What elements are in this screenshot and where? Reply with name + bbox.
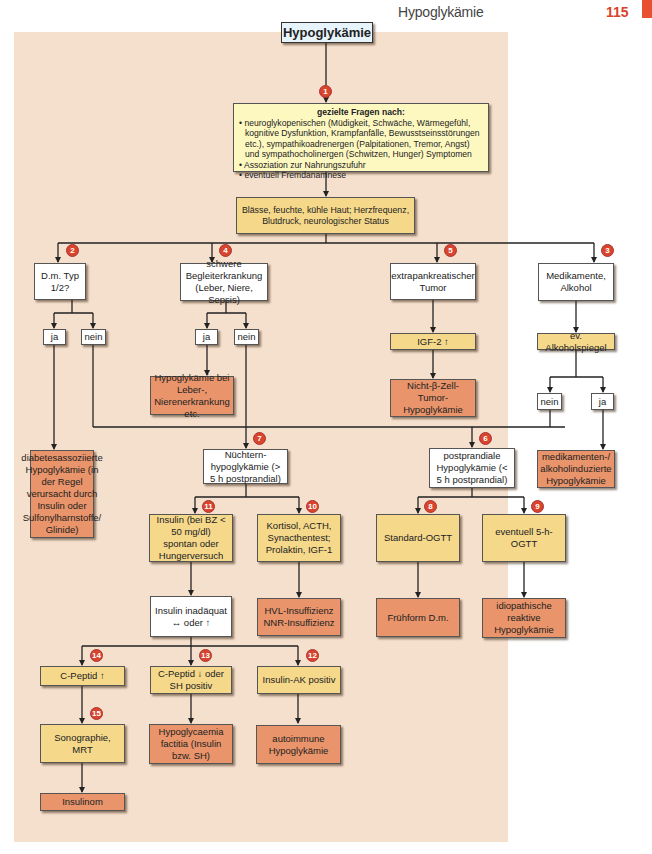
step-badge-2: 2 (66, 244, 79, 257)
ultrasound-mri-box: Sonographie, MRT (40, 724, 125, 763)
factitious-hypoglycemia-result: Hypoglycaemia factitia (Insulin bzw. SH) (149, 724, 233, 764)
dm-no-option: nein (81, 329, 106, 345)
comorbidity-no-option: nein (234, 329, 259, 345)
comorbidity-yes-option: ja (195, 329, 218, 345)
autoimmune-hypoglycemia-result: autoimmune Hypoglykämie (256, 725, 341, 764)
c-peptide-high-box: C-Peptid ↑ (40, 666, 125, 686)
cortisol-acth-box: Kortisol, ACTH, Synacthentest; Prolaktin… (257, 514, 341, 562)
insulin-antibody-box: Insulin-AK positiv (257, 666, 341, 694)
physical-exam-box: Blässe, feuchte, kühle Haut; Herzfrequen… (236, 197, 415, 234)
step-badge-12: 12 (306, 649, 319, 662)
history-item: • neuroglykopenischen (Müdigkeit, Schwäc… (239, 118, 483, 160)
medication-alcohol-box: Medikamente, Alkohol (538, 263, 614, 301)
step-badge-15: 15 (90, 707, 103, 720)
dm-yes-option: ja (43, 329, 66, 345)
pituitary-adrenal-insufficiency-result: HVL-Insuffizienz NNR-Insuffizienz (257, 598, 341, 636)
liver-kidney-hypoglycemia-result: Hypoglykämie bei Leber-, Nierenerkrankun… (150, 376, 234, 415)
step-badge-5: 5 (444, 244, 457, 257)
step-badge-7: 7 (253, 432, 266, 445)
alcohol-no-option: nein (537, 393, 562, 410)
history-questions-heading: gezielte Fragen nach: (239, 107, 483, 118)
step-badge-10: 10 (306, 500, 319, 513)
fasting-hypoglycemia-box: Nüchtern-hypoglykämie (> 5 h postprandia… (203, 449, 288, 484)
postprandial-hypoglycemia-box: postprandiale Hypoglykämie (< 5 h postpr… (429, 448, 515, 488)
idiopathic-reactive-hypoglycemia-result: idiopathische reaktive Hypoglykämie (482, 598, 566, 638)
alcohol-level-box: ev. Alkoholspiegel (537, 333, 615, 350)
insulin-test-box: Insulin (bei BZ < 50 mg/dl) spontan oder… (149, 514, 233, 562)
step-badge-11: 11 (202, 500, 215, 513)
insulin-inadequate-box: Insulin inadäquat ↔ oder ↑ (150, 596, 232, 637)
history-item: • Assoziation zur Nahrungszufuhr (239, 160, 366, 171)
step-badge-8: 8 (424, 500, 437, 513)
comorbidity-box: schwere Begleiterkrankung (Leber, Niere,… (180, 263, 268, 301)
step-badge-3: 3 (601, 244, 614, 257)
standard-ogtt-box: Standard-OGTT (376, 514, 460, 562)
5h-ogtt-box: eventuell 5-h-OGTT (482, 514, 566, 562)
diabetes-associated-hypoglycemia-result: diabetesassoziierte Hypoglykämie (in der… (30, 450, 94, 538)
insulinoma-result: Insulinom (40, 793, 125, 811)
early-diabetes-result: Frühform D.m. (376, 598, 460, 637)
c-peptide-low-box: C-Peptid ↓ oder SH positiv (150, 666, 232, 694)
step-badge-1: 1 (319, 85, 332, 98)
step-badge-4: 4 (219, 244, 232, 257)
step-badge-9: 9 (531, 500, 544, 513)
step-badge-6: 6 (479, 432, 492, 445)
drug-alcohol-induced-result: medikamenten-/ alkoholinduzierte Hypogly… (537, 450, 615, 488)
igf2-box: IGF-2 ↑ (390, 333, 476, 350)
non-beta-cell-tumor-result: Nicht-β-Zell-Tumor-Hypoglykämie (390, 379, 476, 417)
extrapancreatic-tumor-box: extrapankreatischer Tumor (390, 263, 476, 300)
history-item: • eventuell Fremdanamnese (239, 170, 346, 181)
step-badge-14: 14 (90, 649, 103, 662)
history-questions-box: gezielte Fragen nach: • neuroglykopenisc… (233, 103, 489, 172)
diabetes-type-question: D.m. Typ 1/2? (34, 263, 86, 300)
diagram-title: Hypoglykämie (281, 22, 373, 43)
alcohol-yes-option: ja (591, 393, 614, 410)
step-badge-13: 13 (199, 649, 212, 662)
